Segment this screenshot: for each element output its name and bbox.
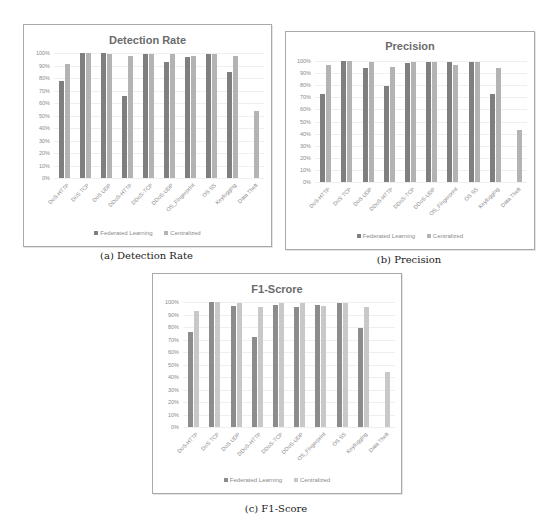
y-tick-label: 10% [300,167,311,173]
bar-centralized [517,130,522,182]
bar-federated [294,307,299,427]
bar-centralized [385,372,390,427]
chart-f1-score: F1-Scrore 0%10%20%30%40%50%60%70%80%90%1… [152,273,402,494]
bar-federated [469,62,474,182]
legend-label-federated: Federated Learning [230,477,282,483]
y-tick-label: 0% [303,179,311,185]
legend-item-centralized: Centralized [164,230,200,236]
bar-federated [384,86,389,182]
plot-area: 0%10%20%30%40%50%60%70%80%90%100%DoS-HTT… [54,53,264,178]
bar-federated [185,57,190,178]
x-tick-label: Data Theft [236,182,258,204]
bar-federated [341,61,346,182]
chart-title: Detection Rate [24,34,271,46]
y-tick-label: 80% [39,75,50,81]
y-tick-label: 100% [165,299,179,305]
bar-centralized [191,56,196,179]
bar-centralized [128,56,133,179]
bar-centralized [170,54,175,178]
bar-federated [206,54,211,178]
gridline [315,182,527,183]
legend-item-federated: Federated Learning [94,230,152,236]
chart-title: F1-Scrore [153,283,401,295]
bar-federated [358,328,363,427]
bar-centralized [453,65,458,182]
bar-centralized [279,303,284,427]
y-tick-label: 70% [168,337,179,343]
y-tick-label: 60% [39,100,50,106]
y-tick-label: 30% [168,387,179,393]
plot-area: 0%10%20%30%40%50%60%70%80%90%100%DoS-HTT… [183,302,395,427]
y-tick-label: 50% [300,119,311,125]
y-tick-label: 40% [168,374,179,380]
bar-centralized [321,306,326,427]
x-tick-label: OS SS [331,431,347,447]
y-tick-label: 60% [300,106,311,112]
x-tick-label: Keylogging [477,186,500,209]
bar-federated [320,94,325,182]
y-tick-label: 90% [39,63,50,69]
bar-centralized [107,54,112,178]
bar-centralized [343,303,348,427]
chart-title: Precision [286,40,534,52]
legend-swatch-centralized [164,231,168,235]
bar-federated [164,62,169,178]
x-tick-label: OS SS [201,182,217,198]
bar-centralized [432,62,437,182]
bar-federated [315,305,320,428]
bar-centralized [86,53,91,178]
x-tick-label: DoS UDP [91,182,112,203]
y-tick-label: 70% [300,94,311,100]
bar-centralized [411,62,416,182]
y-tick-label: 60% [168,349,179,355]
y-tick-label: 30% [39,138,50,144]
bar-centralized [254,111,259,179]
y-tick-label: 30% [300,143,311,149]
bar-federated [209,302,214,427]
bar-federated [231,306,236,427]
bar-federated [405,63,410,182]
y-tick-label: 0% [171,424,179,430]
bar-federated [447,62,452,182]
x-tick-label: Keylogging [214,182,237,205]
plot-area: 0%10%20%30%40%50%60%70%80%90%100%DoS-HTT… [315,61,527,182]
bar-federated [490,94,495,182]
legend-swatch-centralized [294,478,298,482]
legend-swatch-federated [224,478,228,482]
bar-centralized [212,54,217,178]
legend-item-centralized: Centralized [294,477,330,483]
caption-a: (a) Detection Rate [23,250,270,261]
bar-federated [59,81,64,179]
bar-centralized [149,54,154,178]
y-tick-label: 20% [168,399,179,405]
legend-label-centralized: Centralized [300,477,330,483]
bar-centralized [369,62,374,182]
bar-centralized [326,65,331,182]
legend: Federated Learning Centralized [286,233,534,239]
y-tick-label: 50% [39,113,50,119]
bar-centralized [496,68,501,182]
y-tick-label: 10% [168,412,179,418]
y-tick-label: 50% [168,362,179,368]
x-tick-label: DoS-HTTP [46,182,69,205]
bar-federated [252,337,257,427]
bar-centralized [215,302,220,427]
bar-centralized [300,303,305,427]
bar-centralized [233,56,238,179]
y-tick-label: 80% [168,324,179,330]
bar-centralized [65,64,70,178]
bar-centralized [475,62,480,182]
gridline [183,427,395,428]
bar-centralized [364,307,369,427]
x-tick-label: DoS-HTTP [308,186,331,209]
bar-centralized [258,307,263,427]
bar-federated [101,53,106,178]
chart-precision: Precision 0%10%20%30%40%50%60%70%80%90%1… [285,31,535,250]
x-tick-label: DoS TCP [331,186,352,207]
bar-federated [337,303,342,427]
x-tick-label: DoS TCP [199,431,220,452]
bar-centralized [390,67,395,182]
legend-swatch-centralized [427,234,431,238]
bar-federated [80,53,85,178]
y-tick-label: 40% [39,125,50,131]
